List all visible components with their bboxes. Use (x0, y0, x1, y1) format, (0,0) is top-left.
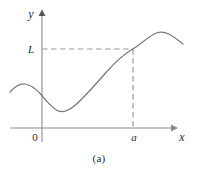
limit-value-label: L (27, 43, 34, 55)
y-axis-arrowhead (39, 10, 46, 17)
function-curve (10, 32, 183, 111)
figure-caption: (a) (0, 152, 198, 164)
y-axis-label: y (27, 7, 34, 21)
x-marker-label: a (131, 131, 137, 143)
origin-label: 0 (32, 131, 38, 143)
figure-container: y x 0 L a (a) (0, 0, 198, 179)
x-axis-label: x (178, 130, 185, 144)
x-axis-arrowhead (171, 125, 178, 132)
